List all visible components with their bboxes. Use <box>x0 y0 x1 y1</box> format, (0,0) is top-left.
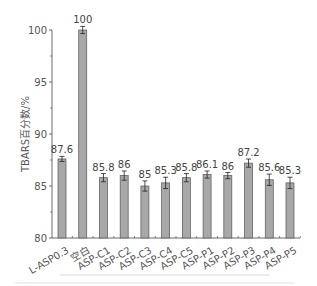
bar-value-label: 85.8 <box>92 162 114 173</box>
bar-value-label: 86.1 <box>196 159 218 170</box>
bar-value-label: 86 <box>221 161 234 172</box>
bar-value-label: 100 <box>73 14 92 25</box>
bar <box>79 30 87 238</box>
bar <box>286 183 294 238</box>
bar <box>265 180 273 238</box>
y-tick-label: 90 <box>34 129 47 140</box>
y-tick-label: 85 <box>34 181 47 192</box>
bar-chart: 80859095100 87.610085.8868585.385.886.18… <box>0 0 317 286</box>
bar <box>245 163 253 238</box>
bar <box>203 175 211 238</box>
bar <box>162 183 170 238</box>
bar-value-label: 85.6 <box>258 162 280 173</box>
y-tick-label: 80 <box>34 233 47 244</box>
bar-value-label: 87.6 <box>51 144 73 155</box>
bars <box>58 26 294 238</box>
bar <box>224 176 232 238</box>
bar-value-label: 87.2 <box>237 147 259 158</box>
bar <box>99 178 107 238</box>
figure-caption-blurred <box>0 268 317 286</box>
bar-value-label: 85 <box>139 169 152 180</box>
value-labels: 87.610085.8868585.385.886.18687.285.685.… <box>51 14 301 179</box>
y-tick-label: 95 <box>34 77 47 88</box>
bar <box>58 159 66 238</box>
bar <box>182 178 190 238</box>
bar-value-label: 85.3 <box>279 165 301 176</box>
bar-value-label: 85.8 <box>175 162 197 173</box>
y-axis-label: TBARS百分数/% <box>17 96 32 172</box>
y-tick-label: 100 <box>28 25 47 36</box>
bar <box>141 186 149 238</box>
bar <box>120 176 128 238</box>
bar-value-label: 86 <box>118 159 131 170</box>
bar-value-label: 85.3 <box>155 165 177 176</box>
